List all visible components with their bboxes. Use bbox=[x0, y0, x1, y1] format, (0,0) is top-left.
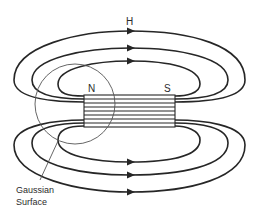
arrow-icon bbox=[127, 159, 135, 166]
north-pole-label: N bbox=[88, 83, 95, 94]
gaussian-label-line2: Surface bbox=[16, 197, 47, 207]
gaussian-label-line1: Gaussian bbox=[16, 185, 54, 195]
top-inner-loop bbox=[58, 61, 200, 96]
arrow-icon bbox=[127, 189, 135, 196]
arrow-icon bbox=[127, 45, 135, 52]
gaussian-leader-line bbox=[40, 141, 58, 180]
south-pole-label: S bbox=[164, 83, 171, 94]
arrow-icon bbox=[127, 58, 135, 65]
top-field-lines bbox=[14, 28, 245, 103]
arrow-icon bbox=[127, 28, 135, 35]
magnet-field-diagram: H N S Gaussian Surface bbox=[0, 0, 256, 221]
arrow-icon bbox=[127, 172, 135, 179]
field-label: H bbox=[126, 16, 133, 27]
bottom-outer-loop bbox=[14, 120, 245, 192]
bar-magnet bbox=[84, 95, 175, 127]
top-outer-loop bbox=[14, 31, 245, 102]
